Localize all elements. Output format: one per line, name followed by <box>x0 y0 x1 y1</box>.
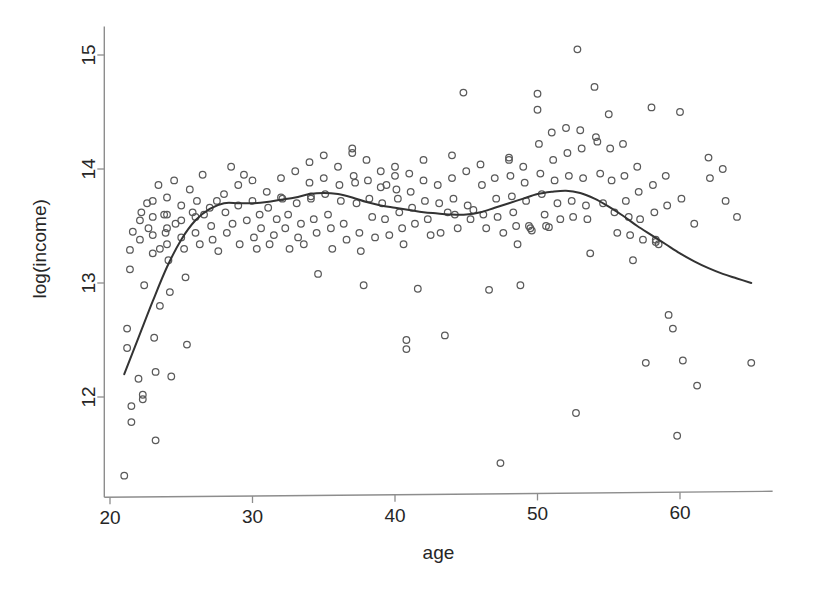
data-point <box>221 191 228 198</box>
data-point <box>135 375 142 382</box>
data-point <box>127 247 134 254</box>
data-point <box>315 271 322 278</box>
data-point <box>236 241 243 248</box>
data-point <box>449 152 456 159</box>
data-point <box>648 104 655 111</box>
data-point <box>536 141 543 148</box>
data-point <box>249 177 256 184</box>
data-point <box>369 214 376 221</box>
data-point <box>415 285 422 292</box>
data-point <box>138 209 145 216</box>
data-point <box>420 157 427 164</box>
data-point <box>121 472 128 479</box>
data-point <box>382 216 389 223</box>
data-point <box>583 202 590 209</box>
data-point <box>424 216 431 223</box>
data-point <box>665 312 672 319</box>
data-point <box>224 230 231 237</box>
data-point <box>128 419 135 426</box>
data-point <box>338 198 345 205</box>
data-point <box>442 332 449 339</box>
data-point <box>436 200 443 207</box>
data-point <box>396 209 403 216</box>
data-point <box>564 150 571 157</box>
data-point <box>574 46 581 53</box>
data-point <box>214 198 221 205</box>
data-point <box>534 90 541 97</box>
data-point <box>651 209 658 216</box>
data-point <box>605 111 612 118</box>
data-point <box>350 173 357 180</box>
data-point <box>748 360 755 367</box>
data-point <box>707 175 714 182</box>
data-point <box>228 163 235 170</box>
data-point <box>386 232 393 239</box>
data-point <box>149 198 156 205</box>
data-point <box>168 373 175 380</box>
data-point <box>463 168 470 175</box>
data-point <box>194 198 201 205</box>
data-point <box>486 287 493 294</box>
data-point <box>500 230 507 237</box>
data-point <box>162 230 169 237</box>
data-point <box>229 220 236 227</box>
data-point <box>584 216 591 223</box>
data-point <box>164 241 171 248</box>
data-point <box>454 225 461 232</box>
data-point <box>286 246 293 253</box>
x-axis-line <box>104 491 772 497</box>
data-point <box>664 202 671 209</box>
data-point <box>464 202 471 209</box>
data-point <box>282 225 289 232</box>
data-point <box>152 437 159 444</box>
data-point <box>139 396 146 403</box>
data-point <box>329 246 336 253</box>
y-tick-label: 13 <box>78 272 99 293</box>
data-point <box>557 216 564 223</box>
data-point <box>313 230 320 237</box>
data-point <box>383 182 390 189</box>
data-point <box>691 220 698 227</box>
data-point <box>295 234 302 241</box>
data-point <box>167 289 174 296</box>
data-point <box>573 410 580 417</box>
data-point <box>570 214 577 221</box>
data-point <box>563 125 570 132</box>
x-tick-label: 60 <box>669 502 690 523</box>
data-point <box>349 150 356 157</box>
data-point <box>209 236 216 243</box>
data-point <box>399 225 406 232</box>
data-point <box>392 163 399 170</box>
scatter-points-layer <box>121 46 755 479</box>
data-point <box>130 228 137 235</box>
data-point <box>352 179 359 186</box>
data-point <box>635 189 642 196</box>
data-point <box>306 179 313 186</box>
data-point <box>301 241 308 248</box>
data-point <box>520 163 527 170</box>
y-tick-label: 14 <box>78 158 99 180</box>
data-point <box>437 230 444 237</box>
x-tick-label: 50 <box>527 503 548 524</box>
data-point <box>479 182 486 189</box>
data-point <box>554 200 561 207</box>
data-point <box>377 168 384 175</box>
data-point <box>235 182 242 189</box>
data-point <box>400 241 407 248</box>
data-point <box>151 334 158 341</box>
data-point <box>517 282 524 289</box>
x-axis-ticks: 2030405060 <box>99 492 690 528</box>
data-point <box>181 246 188 253</box>
data-point <box>705 154 712 161</box>
y-tick-label: 15 <box>78 44 99 65</box>
data-point <box>251 234 258 241</box>
data-point <box>677 109 684 116</box>
data-point <box>607 145 614 152</box>
data-point <box>566 173 573 180</box>
data-point <box>343 236 350 243</box>
data-point <box>322 191 329 198</box>
data-point <box>627 232 634 239</box>
y-tick-label: 12 <box>78 386 99 407</box>
data-point <box>521 179 528 186</box>
data-point <box>680 357 687 364</box>
